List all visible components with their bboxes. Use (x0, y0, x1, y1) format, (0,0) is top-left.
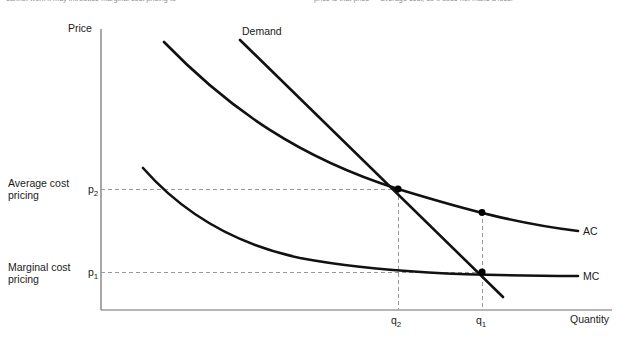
demand-curve (240, 40, 503, 297)
diagram-canvas (0, 0, 618, 341)
y-tick-p1-sub: 1 (94, 272, 98, 281)
y-tick-label-p2: p2 (88, 183, 98, 197)
x-tick-label-q1: q1 (476, 314, 486, 328)
quantity-axis-label: Quantity (570, 313, 609, 325)
point-ac-at-q1 (479, 209, 486, 216)
x-tick-q2-base: q (391, 314, 397, 326)
x-tick-label-q2: q2 (391, 314, 401, 328)
x-tick-q1-base: q (476, 314, 482, 326)
ac-curve-label: AC (583, 225, 598, 237)
y-tick-p2-base: p (88, 183, 94, 195)
mc-curve (143, 168, 578, 276)
x-tick-q2-sub: 2 (397, 320, 401, 329)
mc-curve-label: MC (583, 270, 599, 282)
average-cost-pricing-label: Average cost pricing (8, 177, 94, 201)
y-tick-label-p1: p1 (88, 266, 98, 280)
economics-diagram: Price Demand Quantity AC MC Average cost… (0, 0, 618, 341)
y-tick-p1-base: p (88, 266, 94, 278)
y-tick-p2-sub: 2 (94, 189, 98, 198)
x-tick-q1-sub: 1 (482, 320, 486, 329)
marginal-cost-pricing-label: Marginal cost pricing (8, 261, 94, 285)
demand-curve-label: Demand (242, 25, 282, 37)
price-axis-label: Price (68, 22, 92, 34)
point-demand-mc-intersection (478, 268, 485, 275)
point-demand-ac-intersection (394, 185, 401, 192)
ac-curve (164, 42, 578, 231)
